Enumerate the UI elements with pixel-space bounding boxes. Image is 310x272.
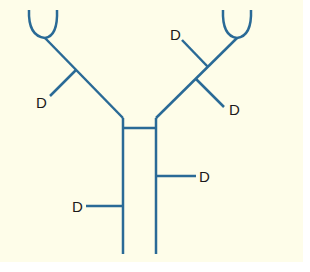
antibody-drug-conjugate-diagram: D D D D D (0, 0, 310, 272)
linker-upper-right-top (182, 40, 208, 67)
drug-label-stem-left: D (72, 198, 83, 215)
linker-upper-left (50, 70, 76, 96)
drug-label-upper-right-top: D (170, 26, 181, 43)
drug-label-upper-left: D (36, 94, 47, 111)
drug-label-upper-right-bottom: D (229, 101, 240, 118)
right-binding-site-icon (223, 10, 251, 38)
right-arm (156, 38, 237, 118)
drug-label-stem-right: D (199, 168, 210, 185)
left-binding-site-icon (29, 10, 57, 38)
linker-upper-right-bottom (196, 79, 224, 107)
left-arm (45, 38, 123, 118)
